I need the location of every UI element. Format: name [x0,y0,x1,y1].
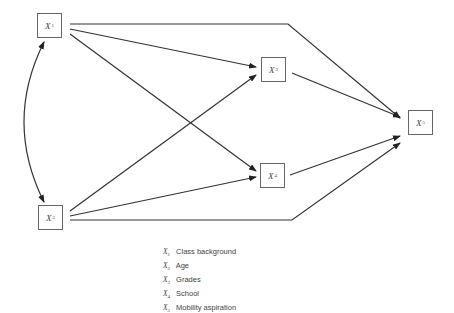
node-x3-var: X [269,65,275,75]
node-x2-sub: 2 [53,215,56,220]
node-x2-var: X [46,213,52,223]
legend-item-x2: X2 Age [163,260,236,274]
edge-x1-x4 [70,34,256,171]
edge-x1-x3 [70,29,256,67]
node-x1-sub: 1 [52,23,55,28]
legend-label: Grades [176,275,201,284]
legend-label: Age [176,261,189,270]
legend-sub: 5 [168,308,171,313]
legend-label: Mobility aspiration [176,303,236,312]
node-x1-var: X [45,21,51,31]
legend-item-x5: X5 Mobility aspiration [163,302,236,313]
node-x3-sub: 3 [276,67,279,72]
node-x4: X4 [260,163,285,188]
node-x5-var: X [416,118,422,128]
legend-item-x4: X4 School [163,288,236,302]
legend-sub: 4 [168,294,171,299]
legend-item-x3: X3 Grades [163,274,236,288]
legend-label: Class background [176,247,236,256]
node-x1: X1 [37,13,62,38]
legend-sub: 1 [168,252,171,257]
legend-label: School [176,289,199,298]
node-x5-sub: 5 [423,120,426,125]
node-x4-var: X [268,171,274,181]
node-x4-sub: 4 [275,173,278,178]
edge-x2-x3 [70,75,256,211]
legend: X1 Class background X2 Age X3 Grades X4 … [163,246,236,313]
node-x2: X2 [38,205,63,230]
node-x3: X3 [261,57,286,82]
legend-sub: 3 [168,280,171,285]
edge-x2-x4 [70,177,256,216]
legend-item-x1: X1 Class background [163,246,236,260]
legend-sub: 2 [168,266,171,271]
node-x5: X5 [408,110,433,135]
edge-x1-x2 [24,42,44,202]
edge-x3-x5 [292,73,400,117]
